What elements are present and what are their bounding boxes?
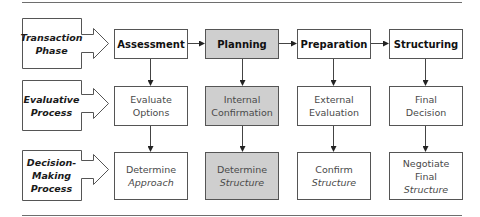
phase-planning: Planning: [205, 29, 279, 59]
node-label-italic: Structure: [220, 176, 264, 189]
row-label-line: Transaction: [20, 31, 82, 44]
row-label-line: Phase: [35, 44, 67, 57]
evaluative-final-decision: Final Decision: [389, 86, 463, 126]
node-label: Final: [415, 170, 437, 183]
node-label: Determine: [217, 163, 267, 176]
row-label-decision-making-process: Decision- Making Process: [22, 150, 81, 201]
node-label: Negotiate: [403, 157, 450, 170]
node-label-italic: Structure: [404, 183, 448, 196]
evaluative-external-evaluation: External Evaluation: [297, 86, 371, 126]
node-label: Options: [133, 106, 170, 119]
node-label: Evaluation: [309, 106, 359, 119]
node-label: Determine: [126, 163, 176, 176]
node-label-italic: Approach: [128, 176, 173, 189]
phase-preparation: Preparation: [297, 29, 371, 59]
node-label: Structuring: [394, 38, 459, 51]
node-label: Assessment: [117, 38, 184, 51]
node-label: Preparation: [301, 38, 368, 51]
node-label: Evaluate: [130, 93, 172, 106]
decision-negotiate-final-structure: Negotiate Final Structure: [389, 152, 463, 200]
decision-confirm-structure: Confirm Structure: [297, 152, 371, 200]
evaluative-internal-confirmation: Internal Confirmation: [205, 86, 279, 126]
row-label-line: Process: [31, 106, 72, 119]
node-label-italic: Structure: [312, 176, 356, 189]
decision-determine-approach: Determine Approach: [114, 152, 188, 200]
node-label: Planning: [217, 38, 266, 51]
phase-structuring: Structuring: [389, 29, 463, 59]
evaluative-evaluate-options: Evaluate Options: [114, 86, 188, 126]
row-label-evaluative-process: Evaluative Process: [22, 80, 81, 131]
row-label-line: Decision-: [27, 156, 76, 169]
decision-determine-structure: Determine Structure: [205, 152, 279, 200]
node-label: Internal: [224, 93, 261, 106]
node-label: External: [314, 93, 353, 106]
node-label: Final: [415, 93, 437, 106]
row-label-line: Evaluative: [24, 93, 80, 106]
node-label: Confirmation: [211, 106, 272, 119]
row-label-line: Process: [31, 182, 72, 195]
node-label: Decision: [406, 106, 446, 119]
row-label-transaction-phase: Transaction Phase: [22, 18, 81, 69]
phase-assessment: Assessment: [114, 29, 188, 59]
row-label-line: Making: [32, 169, 71, 182]
node-label: Confirm: [315, 163, 352, 176]
